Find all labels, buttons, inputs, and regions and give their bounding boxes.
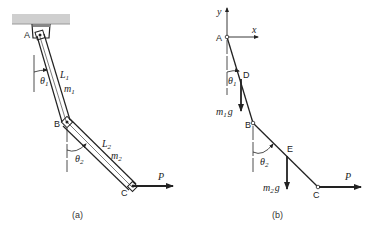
m1-label: m1 [64,83,75,96]
point-D-label: D [243,70,250,80]
ceiling [12,14,70,24]
caption-b: (b) [272,210,283,220]
point-C-label-b: C [313,190,320,200]
panel-a: θ1 L1 m1 A B θ2 L2 m2 C P (a) [12,14,173,220]
theta1-label-b: θ1 [228,75,236,88]
point-B-label-b: B [245,120,251,130]
link-BC [253,123,318,187]
double-pendulum-figure: θ1 L1 m1 A B θ2 L2 m2 C P (a) y x [0,0,369,232]
theta2-label: θ2 [75,153,84,166]
point-C-label: C [121,188,128,198]
point-E-label: E [287,144,293,154]
L1-label: L1 [59,69,69,82]
panel-b: y x A D B E C θ1 m1g θ2 m2g P (b) [216,6,361,220]
point-A-label-b: A [216,33,222,43]
caption-a: (a) [72,210,83,220]
link-2 [61,116,137,191]
x-axis-label: x [251,24,257,35]
point-B-label: B [54,119,60,129]
weight-m2g-label: m2g [263,182,280,195]
y-axis-label: y [216,6,222,17]
L2-label: L2 [101,138,112,151]
force-P-label: P [157,171,164,182]
weight-m1g-label: m1g [216,106,233,119]
theta2-label-b: θ2 [260,156,269,169]
force-P-label-b: P [344,171,351,182]
theta1-label: θ1 [40,75,48,88]
point-A-label: A [24,30,30,40]
